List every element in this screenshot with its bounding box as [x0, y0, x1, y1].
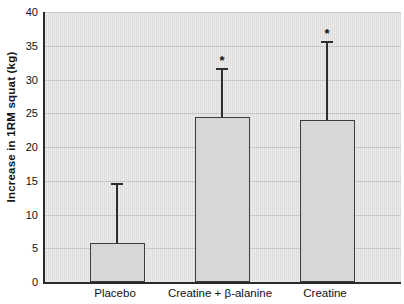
y-tick-label-25: 25 — [2, 107, 38, 119]
error-bar-cap-1 — [111, 183, 123, 185]
gridline-35 — [45, 46, 401, 47]
error-bar-line-1 — [116, 184, 118, 243]
y-tick-label-0: 0 — [2, 276, 38, 288]
error-bar-cap-2 — [216, 68, 228, 70]
significance-marker-3: * — [324, 29, 329, 39]
bar-1 — [90, 243, 145, 282]
x-category-label-3: Creatine — [303, 287, 346, 299]
error-bar-line-3 — [326, 42, 328, 120]
error-bar-line-2 — [221, 69, 223, 116]
y-tick-label-15: 15 — [2, 175, 38, 187]
gridline-30 — [45, 80, 401, 81]
y-tick-label-40: 40 — [2, 6, 38, 18]
bar-3 — [300, 120, 355, 282]
plot-area: ** — [43, 12, 401, 284]
significance-marker-2: * — [219, 56, 224, 66]
y-tick-label-20: 20 — [2, 141, 38, 153]
y-tick-label-5: 5 — [2, 242, 38, 254]
gridline-40 — [45, 12, 401, 13]
gridline-25 — [45, 113, 401, 114]
y-tick-label-35: 35 — [2, 40, 38, 52]
x-category-label-1: Placebo — [94, 287, 136, 299]
bar-chart-figure: Increase in 1RM squat (kg) ** 0510152025… — [0, 0, 404, 304]
x-category-label-2: Creatine + β-alanine — [168, 287, 272, 299]
bar-2 — [195, 117, 250, 282]
y-tick-label-30: 30 — [2, 74, 38, 86]
y-tick-label-10: 10 — [2, 209, 38, 221]
error-bar-cap-3 — [321, 41, 333, 43]
